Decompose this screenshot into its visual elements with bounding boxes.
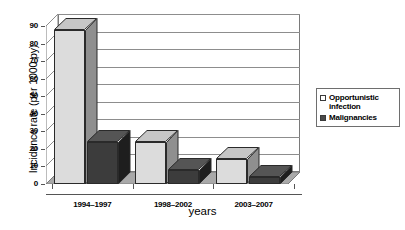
bar-opportunistic-infection-2 [216, 159, 247, 184]
bar-front-face [249, 177, 280, 184]
x-tick-mark [213, 184, 214, 189]
x-axis-title: years [0, 205, 405, 217]
legend-swatch-icon-opportunistic-infection [320, 95, 326, 101]
x-tick-mark [133, 184, 134, 189]
y-tick-label: 60 [14, 74, 38, 83]
bar-front-face [54, 30, 85, 184]
bar-malignancies-1 [168, 170, 199, 184]
legend-item-malignancies: Malignancies [320, 113, 396, 122]
chart-figure: Incidence rate (per 1000 py) 01020304050… [0, 0, 405, 230]
bar-opportunistic-infection-1 [135, 142, 166, 184]
y-tick-mark [41, 26, 45, 27]
y-tick-label: 50 [14, 91, 38, 100]
y-tick-label: 90 [14, 21, 38, 30]
y-tick-label: 80 [14, 39, 38, 48]
bar-side-face [118, 130, 131, 184]
y-tick-mark [41, 79, 45, 80]
y-tick-mark [41, 96, 45, 97]
legend-item-opportunistic-infection: Opportunistic infection [320, 93, 396, 111]
y-tick-mark [41, 184, 45, 185]
bar-side-face [199, 158, 212, 184]
y-tick-label: 0 [14, 179, 38, 188]
y-tick-label: 20 [14, 144, 38, 153]
y-tick-mark [41, 149, 45, 150]
bar-front-face [135, 142, 166, 184]
y-tick-label: 30 [14, 126, 38, 135]
y-tick-mark [41, 114, 45, 115]
bar-malignancies-2 [249, 177, 280, 184]
x-tick-mark [294, 184, 295, 189]
legend-swatch-icon-malignancies [320, 115, 326, 121]
bar-side-face [280, 165, 293, 184]
gridline [58, 14, 300, 15]
y-tick-label: 10 [14, 161, 38, 170]
legend-label-opportunistic-infection: Opportunistic infection [329, 93, 396, 111]
chart-legend: Opportunistic infection Malignancies [316, 88, 400, 127]
plot-area [46, 14, 300, 182]
y-tick-mark [41, 166, 45, 167]
y-tick-label: 70 [14, 56, 38, 65]
bar-front-face [87, 142, 118, 184]
y-tick-label: 40 [14, 109, 38, 118]
bar-opportunistic-infection-0 [54, 30, 85, 184]
x-axis-line [46, 194, 302, 195]
bar-front-face [168, 170, 199, 184]
y-tick-mark [41, 61, 45, 62]
x-tick-mark [52, 184, 53, 189]
legend-label-malignancies: Malignancies [329, 113, 377, 122]
bar-malignancies-0 [87, 142, 118, 184]
y-tick-mark [41, 131, 45, 132]
y-tick-mark [41, 44, 45, 45]
bar-front-face [216, 159, 247, 184]
